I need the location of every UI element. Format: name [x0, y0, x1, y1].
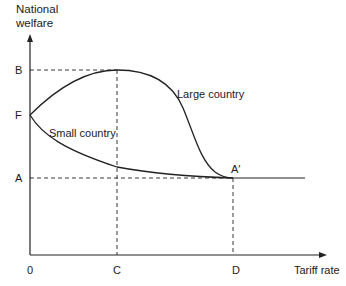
tick-label-B: B: [15, 65, 22, 76]
tick-label-A: A: [15, 173, 22, 184]
y-axis-title-line2: welfare: [16, 18, 53, 30]
tick-label-0: 0: [27, 265, 33, 276]
small-country-label: Small country: [49, 128, 116, 139]
x-axis-arrow-icon: [319, 252, 327, 258]
y-axis-title-line1: National: [16, 4, 58, 16]
large-country-curve: [30, 70, 233, 178]
tick-label-C: C: [113, 265, 121, 276]
a-prime-label: A′: [231, 164, 240, 175]
x-axis-title: Tariff rate: [294, 265, 340, 276]
large-country-label: Large country: [177, 89, 244, 100]
welfare-tariff-diagram: [0, 0, 346, 286]
small-country-curve: [30, 115, 233, 178]
tick-label-D: D: [232, 265, 240, 276]
tick-label-F: F: [15, 110, 22, 121]
y-axis-arrow-icon: [27, 34, 33, 42]
